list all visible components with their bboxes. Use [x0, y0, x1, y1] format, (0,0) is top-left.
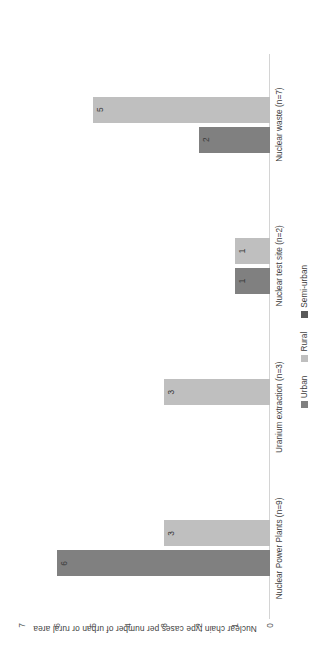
legend-item[interactable]: Semi-urban: [299, 265, 309, 318]
x-axis-category-label: Nuclear Power Plants (n=9): [274, 498, 284, 600]
bar-value-label: 3: [167, 520, 175, 546]
bar-chart-figure: Nuclear chain type cases per number of u…: [0, 0, 332, 671]
bar-value-label: 1: [238, 268, 246, 294]
legend-label: Rural: [299, 332, 309, 352]
bar-value-label: 6: [60, 550, 68, 576]
x-axis-category-label: Nuclear test site (n=2): [274, 225, 284, 306]
bar-value-label: 3: [167, 379, 175, 405]
bar-value-label: 5: [96, 97, 104, 123]
bar[interactable]: 2: [199, 127, 270, 153]
bar-group: 11: [22, 238, 270, 294]
y-axis-tick-2: 2: [194, 623, 204, 649]
legend-item[interactable]: Urban: [299, 376, 309, 409]
y-axis-tick-0: 0: [265, 623, 275, 649]
legend-item[interactable]: Rural: [299, 332, 309, 362]
bar-group: 63: [22, 520, 270, 576]
bar[interactable]: 3: [164, 520, 270, 546]
legend-swatch-icon: [301, 355, 308, 362]
bar[interactable]: 6: [57, 550, 270, 576]
bar[interactable]: 1: [235, 268, 270, 294]
legend-label: Semi-urban: [299, 265, 309, 308]
bar-group: 25: [22, 97, 270, 153]
bar[interactable]: 5: [93, 97, 270, 123]
x-axis-category-labels: Nuclear Power Plants (n=9)Uranium extrac…: [274, 54, 290, 619]
legend-swatch-icon: [301, 401, 308, 408]
chart-legend: UrbanRuralSemi-urban: [296, 54, 312, 619]
rotated-figure-stage: Nuclear chain type cases per number of u…: [0, 0, 332, 671]
legend-swatch-icon: [301, 311, 308, 318]
y-axis-tick-6: 6: [52, 623, 62, 649]
bar-group: 3: [22, 379, 270, 435]
legend-label: Urban: [299, 376, 309, 399]
plot-area: 6331125: [22, 54, 270, 619]
y-axis-tick-4: 4: [123, 623, 133, 649]
bar[interactable]: 1: [235, 238, 270, 264]
y-axis-tick-7: 7: [17, 623, 27, 649]
x-axis-category-label: Uranium extraction (n=3): [274, 361, 284, 453]
y-axis-tick-1: 1: [230, 623, 240, 649]
bar-value-label: 1: [238, 238, 246, 264]
y-axis-tick-3: 3: [159, 623, 169, 649]
bar-value-label: 2: [202, 127, 210, 153]
y-axis-tick-5: 5: [88, 623, 98, 649]
bar[interactable]: 3: [164, 379, 270, 405]
x-axis-category-label: Nuclear waste (n=7): [274, 87, 284, 161]
y-axis-tick-labels: 76543210: [22, 623, 270, 649]
